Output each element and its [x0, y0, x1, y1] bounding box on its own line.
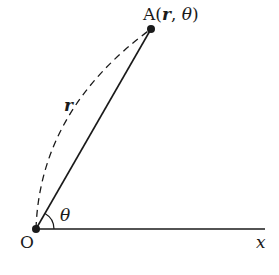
origin-label: O	[20, 232, 34, 252]
point-A-label: A(r, θ)	[142, 4, 199, 24]
x-axis-label: x	[256, 232, 266, 252]
polar-coordinate-diagram: A(r, θ) r θ O x	[0, 0, 279, 275]
segment-OA	[36, 29, 151, 229]
point-A	[147, 25, 155, 33]
angle-label: θ	[60, 205, 70, 225]
radius-label: r	[64, 95, 74, 115]
angle-arc	[45, 213, 54, 229]
